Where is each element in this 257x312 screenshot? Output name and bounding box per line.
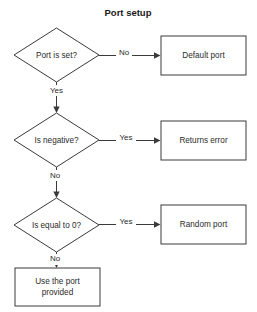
arrow-head-icon <box>154 52 161 58</box>
node-port-is-set[interactable]: Port is set? <box>14 28 99 82</box>
edge-label: Yes <box>50 86 63 95</box>
node-label: Is negative? <box>34 136 79 145</box>
node-label-line1: Use the port <box>35 277 80 286</box>
arrow-head-icon <box>154 221 161 227</box>
edge-port-is-set-no: No <box>99 48 161 59</box>
edge-label: Yes <box>119 133 132 142</box>
process-box <box>15 268 100 306</box>
node-is-negative[interactable]: Is negative? <box>14 113 99 167</box>
edge-label: No <box>50 254 61 263</box>
node-random-port[interactable]: Random port <box>161 205 246 244</box>
edge-is-negative-yes: Yes <box>99 133 161 144</box>
edge-label: No <box>119 48 130 57</box>
node-is-equal-to-zero[interactable]: Is equal to 0? <box>14 198 99 252</box>
node-label-line2: provided <box>42 288 74 297</box>
edge-label: Yes <box>119 217 132 226</box>
node-label: Returns error <box>179 136 228 145</box>
node-label: Port is set? <box>36 51 77 60</box>
node-returns-error[interactable]: Returns error <box>161 121 246 160</box>
arrow-head-icon <box>53 192 59 199</box>
flowchart-canvas: Port setup Port is set? Default port Def… <box>0 0 257 312</box>
flowchart-svg: Port setup Port is set? Default port Def… <box>0 0 257 312</box>
node-label: Random port <box>180 220 228 229</box>
node-use-the-port[interactable]: Use the port provided <box>15 268 100 306</box>
node-default-port[interactable]: Default port <box>161 36 246 75</box>
edge-is-zero-yes: Yes <box>99 217 161 228</box>
edge-is-zero-no: No <box>46 252 65 268</box>
arrow-head-icon <box>154 137 161 143</box>
edge-label: No <box>50 171 61 180</box>
node-label: Is equal to 0? <box>32 221 82 230</box>
node-label: Default port <box>182 51 225 60</box>
edge-is-negative-no: No <box>46 167 65 198</box>
arrow-head-icon <box>53 107 59 114</box>
edge-port-is-set-yes: Yes <box>46 82 67 113</box>
page-title: Port setup <box>105 7 152 18</box>
